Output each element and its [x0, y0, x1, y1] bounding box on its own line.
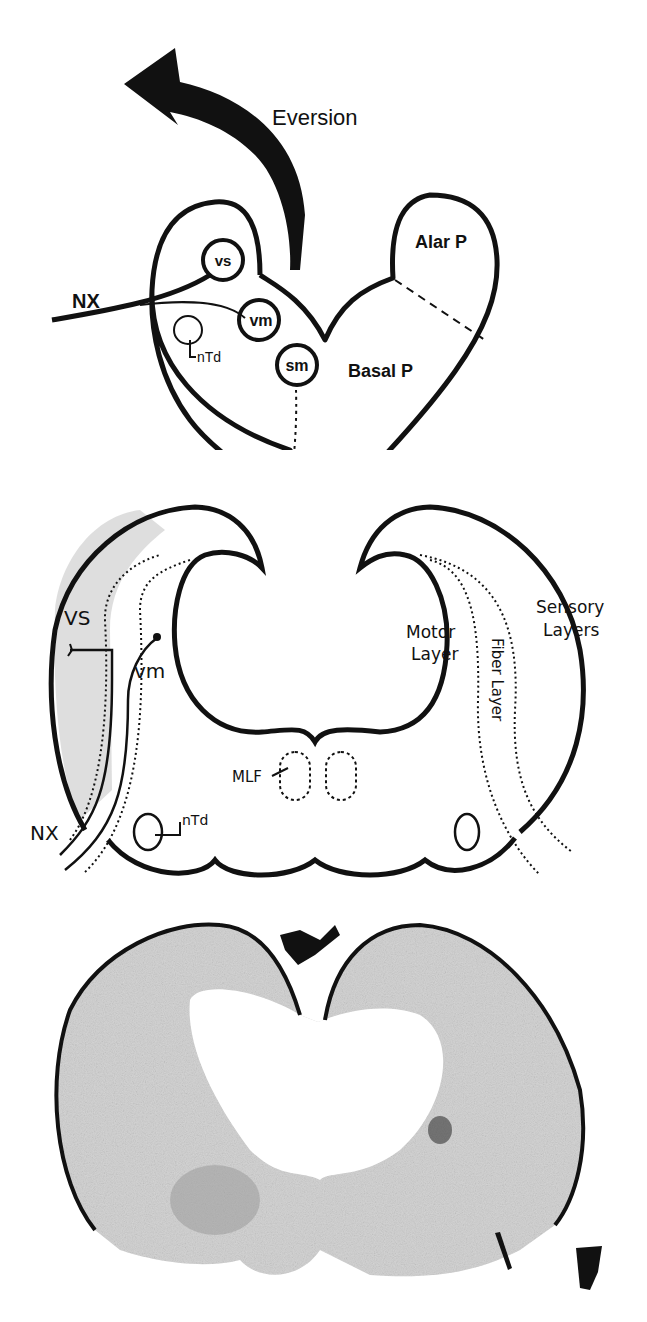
basal-label: Basal P [348, 361, 413, 381]
panel-a-eversion-schematic: Eversion NX vs vm sm nTd Nsm Alar P Basa… [0, 0, 647, 450]
schematic-a: Eversion NX vs vm sm nTd Nsm Alar P Basa… [0, 0, 647, 450]
motor-label-2: Layer [411, 644, 458, 664]
nx-label: NX [30, 821, 59, 845]
eversion-label: Eversion [272, 105, 358, 130]
ntd-nucleus-left [134, 814, 162, 850]
ntd-label: nTd [182, 812, 208, 828]
dark-artifact [576, 1246, 602, 1290]
vs-label: vs [215, 252, 232, 269]
nsm-tract [250, 390, 296, 450]
vs-label: VS [64, 606, 90, 630]
vm-neuron-soma [153, 633, 161, 641]
sm-label: sm [285, 357, 308, 374]
mlf-left [280, 752, 310, 800]
ntd-nucleus [174, 316, 202, 344]
panel-b-layers-schematic: VS vm NX nTd MLF Motor Layer Fiber Layer… [0, 460, 647, 880]
vm-label: vm [134, 659, 165, 683]
vm-label: vm [249, 312, 272, 329]
ventral-border [108, 838, 515, 875]
dark-spot-right [428, 1116, 452, 1144]
tissue-debris [280, 925, 340, 965]
sensory-label-2: Layers [543, 620, 599, 640]
mlf-label: MLF [232, 768, 262, 786]
sensory-label-1: Sensory [536, 597, 604, 617]
ntd-nucleus-right [455, 814, 479, 850]
motor-label-1: Motor [406, 622, 455, 642]
mlf-right [326, 752, 356, 800]
panel-c-histology [0, 880, 647, 1322]
ventral-stain [170, 1165, 260, 1235]
eversion-arrow-icon [124, 48, 305, 270]
ntd-pointer [155, 822, 180, 835]
nx-label: NX [72, 290, 100, 312]
ntd-label: nTd [197, 349, 221, 365]
histology-image [0, 880, 647, 1322]
schematic-b: VS vm NX nTd MLF Motor Layer Fiber Layer… [0, 460, 647, 880]
fiber-label: Fiber Layer [488, 638, 506, 722]
alar-label: Alar P [415, 232, 467, 252]
alar-basal-boundary [395, 280, 488, 342]
